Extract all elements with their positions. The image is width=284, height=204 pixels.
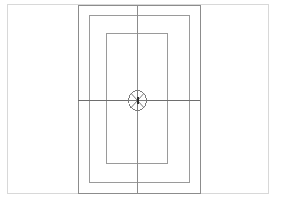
drawing-canvas (0, 0, 284, 204)
technical-drawing (0, 0, 284, 204)
spoked-rosette (129, 91, 147, 111)
rosette-hub (137, 97, 139, 104)
paper-background (0, 0, 284, 204)
